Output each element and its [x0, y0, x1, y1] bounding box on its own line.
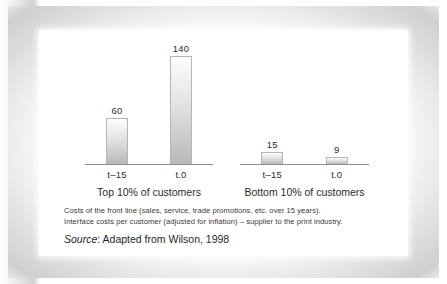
bar-value-bottom-t0: 9: [334, 144, 339, 155]
source-text: : Adapted from Wilson, 1998: [97, 233, 229, 245]
bar-group-top-customers: 60 140 t–15 t.0 Top: [85, 30, 213, 200]
bar-top-t0[interactable]: [170, 56, 192, 164]
bar-group-bottom-customers: 15 9 t–15 t.0 Bottom: [240, 30, 369, 200]
bar-chart-plot: 60 140 t–15 t.0 Top: [39, 30, 408, 200]
bar-slot-bottom-t0: 9: [305, 44, 370, 164]
source-line: Source: Adapted from Wilson, 1998: [64, 233, 229, 245]
bar-slot-bottom-t15: 15: [240, 44, 305, 164]
tick-label-top-t15: t–15: [85, 169, 149, 180]
tick-label-bottom-t15: t–15: [240, 169, 305, 180]
bar-slot-top-t0: 140: [149, 44, 213, 164]
axis-line-top-group: [85, 164, 213, 165]
chart-notes: Costs of the front line (sales, service,…: [64, 206, 394, 227]
figure-container: 60 140 t–15 t.0 Top: [0, 0, 447, 284]
tick-label-bottom-t0: t.0: [305, 169, 370, 180]
bar-slot-top-t15: 60: [85, 44, 149, 164]
bar-group-bottom-bars: 15 9: [240, 44, 369, 164]
axis-line-bottom-group: [240, 164, 369, 165]
note-line-1: Costs of the front line (sales, service,…: [64, 206, 394, 217]
group-label-bottom-customers: Bottom 10% of customers: [240, 186, 369, 198]
chart-card: 60 140 t–15 t.0 Top: [39, 30, 408, 256]
tick-row-top-group: t–15 t.0: [85, 169, 213, 180]
bar-value-bottom-t15: 15: [267, 139, 278, 150]
group-label-top-customers: Top 10% of customers: [85, 186, 213, 198]
bar-value-top-t0: 140: [173, 43, 189, 54]
tick-row-bottom-group: t–15 t.0: [240, 169, 369, 180]
tick-label-top-t0: t.0: [149, 169, 213, 180]
bar-top-t15[interactable]: [106, 118, 128, 164]
source-label: Source: [64, 233, 97, 245]
bar-bottom-t15[interactable]: [261, 152, 283, 164]
note-line-2: Interface costs per customer (adjusted f…: [64, 217, 394, 228]
bar-bottom-t0[interactable]: [326, 157, 348, 164]
bar-value-top-t15: 60: [112, 105, 123, 116]
bar-group-top-bars: 60 140: [85, 44, 213, 164]
